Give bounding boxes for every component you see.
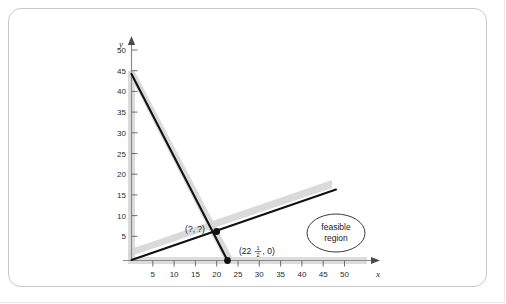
page-root: 5 10 15 20 25 30 35 40 45 50 5 10 15 20 … (0, 0, 506, 304)
y-tick-label: 20 (117, 170, 126, 179)
figure-card: 5 10 15 20 25 30 35 40 45 50 5 10 15 20 … (8, 8, 487, 287)
x-tick-label: 25 (234, 270, 243, 279)
vertex-marker-unknown (213, 228, 220, 235)
y-tick-label: 35 (117, 108, 126, 117)
x-axis-label: x (375, 269, 380, 279)
y-tick-label: 15 (117, 191, 126, 200)
x-tick-label: 45 (319, 270, 328, 279)
y-axis-arrowhead (128, 36, 135, 45)
x-intercept-prefix: (22 (239, 246, 252, 256)
vertex-x-intercept-label: (22 1 2 , 0) (239, 245, 275, 258)
y-tick-label: 10 (117, 212, 126, 221)
x-intercept-fraction-denominator: 2 (256, 252, 259, 258)
y-tick-label: 30 (117, 129, 126, 138)
x-tick-label: 15 (191, 270, 200, 279)
x-axis-arrowhead (371, 257, 380, 264)
y-tick-label: 40 (117, 87, 126, 96)
vertex-unknown-label: (?, ?) (185, 224, 205, 234)
x-intercept-suffix: , 0) (263, 246, 275, 256)
y-axis-tick-labels: 5 10 15 20 25 30 35 40 45 50 (117, 46, 126, 241)
y-tick-label: 45 (117, 67, 126, 76)
x-intercept-fraction-numerator: 1 (256, 245, 259, 251)
feasible-region-callout: feasible region (307, 214, 365, 252)
y-tick-label: 25 (117, 150, 126, 159)
y-tick-label: 5 (122, 232, 127, 241)
x-tick-label: 35 (276, 270, 285, 279)
coordinate-plot: 5 10 15 20 25 30 35 40 45 50 5 10 15 20 … (9, 9, 486, 286)
x-axis-tick-labels: 5 10 15 20 25 30 35 40 45 50 (151, 270, 350, 279)
feasible-region-line2: region (324, 233, 348, 243)
x-tick-label: 30 (255, 270, 264, 279)
x-tick-label: 10 (170, 270, 179, 279)
x-tick-label: 40 (297, 270, 306, 279)
shallow-constraint-line (132, 190, 337, 261)
shaded-band-shallow-line (128, 180, 332, 257)
x-tick-label: 50 (340, 270, 349, 279)
y-axis-label: y (118, 39, 123, 49)
vertex-marker-x-intercept (224, 257, 231, 264)
x-tick-label: 20 (212, 270, 221, 279)
x-tick-label: 5 (151, 270, 156, 279)
feasible-region-line1: feasible (321, 222, 351, 232)
